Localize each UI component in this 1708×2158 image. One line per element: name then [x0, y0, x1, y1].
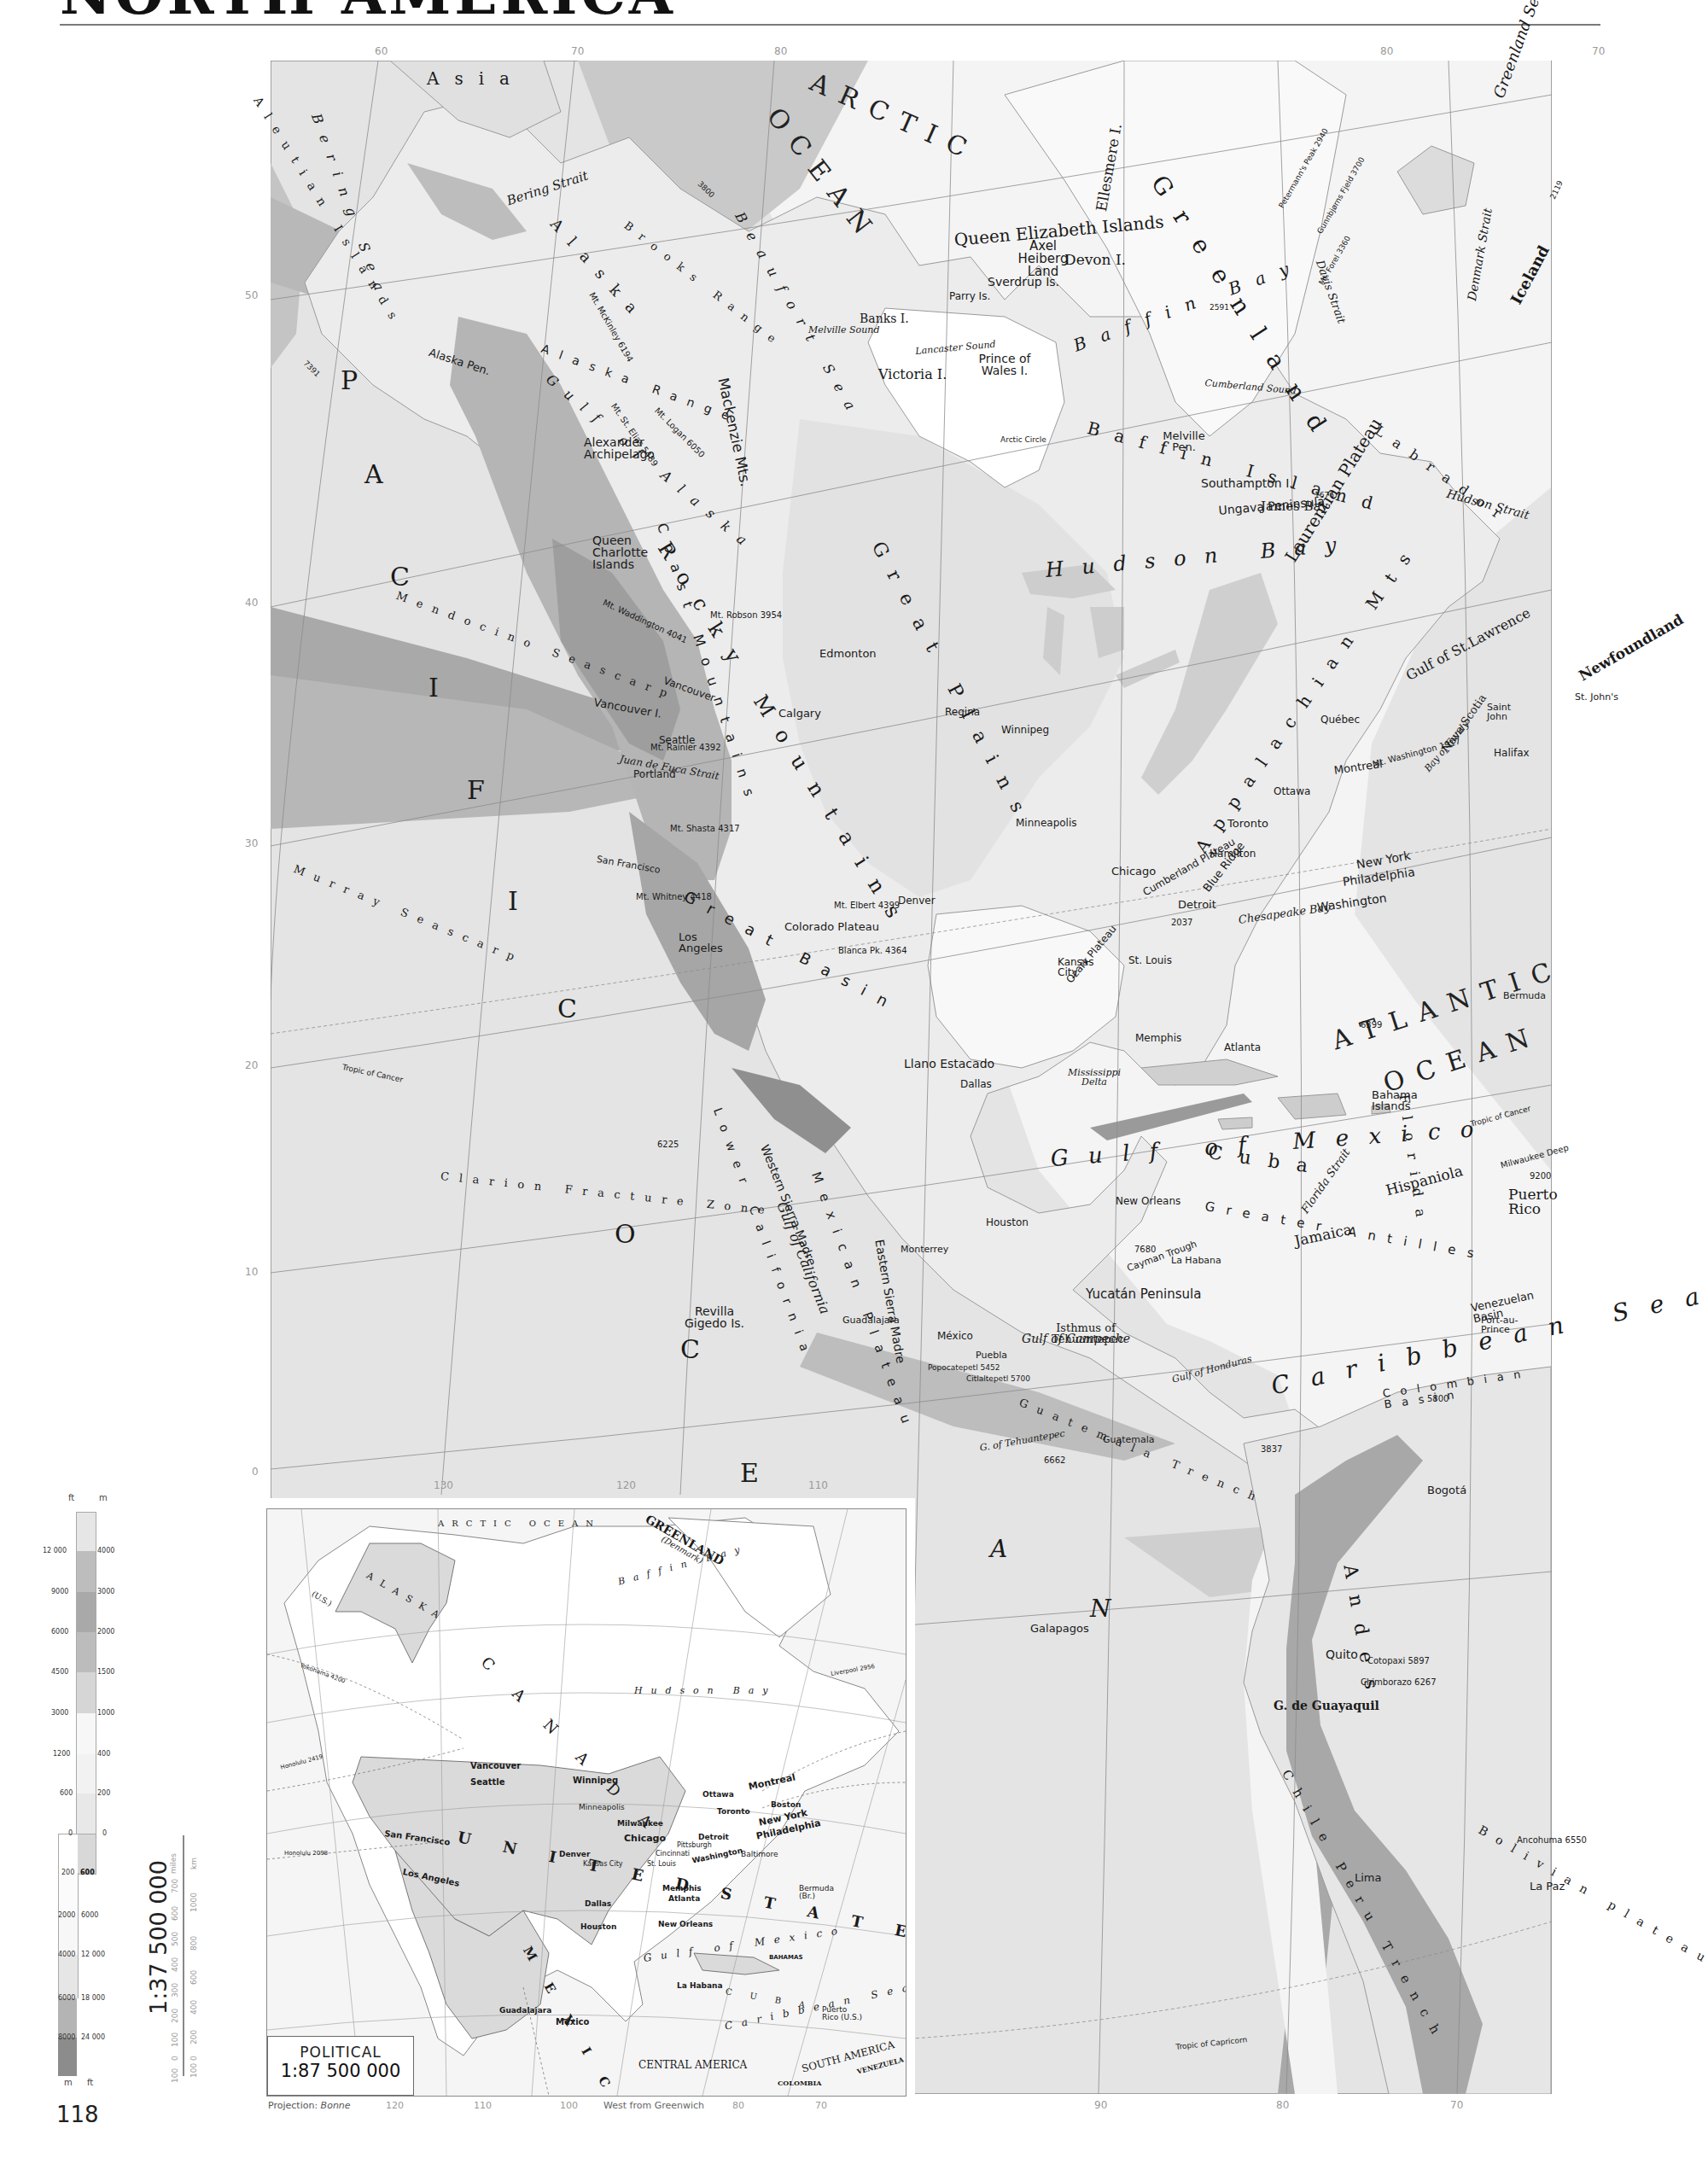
- peak-label: 1676: [1315, 492, 1334, 499]
- legend-sea-band: [58, 1873, 79, 1916]
- scale-miles-tick: 300: [171, 1983, 179, 1998]
- lat-label: 50: [245, 289, 258, 301]
- legend-sea-tick-m: 200: [61, 1869, 74, 1876]
- city-label: New Orleans: [1116, 1196, 1180, 1206]
- legend-band: [76, 1713, 96, 1754]
- pacific-letter: C: [557, 996, 577, 1022]
- puerto-rico-label: Puerto Rico: [1508, 1187, 1559, 1216]
- revilla-gigedo-label: Revilla Gigedo Is.: [676, 1305, 753, 1329]
- inset-city-label: Seattle: [470, 1778, 505, 1787]
- scale-km-tick: 100: [189, 2063, 198, 2078]
- bahama-islands-label: Bahama Islands: [1372, 1089, 1431, 1111]
- scale-km-tick: 0: [189, 2056, 198, 2061]
- scale-km-tick: 1000: [189, 1893, 198, 1912]
- city-label: Hamilton: [1210, 849, 1256, 859]
- inset-city-label: St. Louis: [647, 1861, 676, 1868]
- sverdrup-is-label: Sverdrup Is.: [988, 276, 1059, 288]
- inset-lon-label: 110: [474, 2100, 492, 2111]
- banks-i-label: Banks I.: [860, 312, 909, 324]
- asia-label: Asia: [427, 70, 525, 87]
- inset-city-label: México: [556, 2018, 589, 2027]
- city-label: St. Louis: [1128, 955, 1172, 965]
- inset-city-label: Minneapolis: [579, 1804, 625, 1811]
- pacific-letter: I: [508, 889, 518, 914]
- lon-label: 60: [375, 45, 388, 57]
- axel-heiberg-label: Axel Heiberg Land: [1013, 240, 1073, 278]
- southampton-label: Southampton I.: [1201, 477, 1293, 489]
- legend-sea-tick-ft: 6000: [81, 1911, 98, 1919]
- inset-central-america-label: CENTRAL AMERICA: [638, 2060, 747, 2070]
- inset-city-label: Chicago: [624, 1834, 666, 1843]
- scale-miles-tick: 600: [171, 1906, 179, 1921]
- legend-sea-band: [58, 1916, 79, 1955]
- peak-label: Chimborazo 6267: [1361, 1678, 1437, 1687]
- legend-footer-m: m: [64, 2078, 73, 2087]
- legend-band: [76, 1551, 96, 1592]
- pacific-letter: C: [390, 564, 410, 590]
- inset-city-label: Milwaukee: [617, 1820, 663, 1828]
- lon-label: 90: [1094, 2099, 1107, 2111]
- city-label: Saint John: [1487, 703, 1521, 721]
- melville-sound-label: Melville Sound: [808, 325, 879, 335]
- peak-label: Popocatepetl 5452: [928, 1364, 1000, 1372]
- lat-label: 20: [245, 1059, 258, 1071]
- lat-label: 10: [245, 1266, 258, 1278]
- devon-i-label: Devon I.: [1064, 253, 1126, 267]
- legend-sea-tick-ft: 600: [80, 1869, 95, 1876]
- inset-city-label: Houston: [580, 1923, 616, 1931]
- bermuda-label: Bermuda: [1503, 991, 1546, 1000]
- lon-label: 70: [1450, 2099, 1463, 2111]
- city-label: Portland: [633, 769, 676, 779]
- inset-lon-label: 80: [732, 2100, 744, 2111]
- inset-city-label: Toronto: [717, 1808, 750, 1816]
- peak-label: Cotopaxi 5897: [1367, 1657, 1430, 1665]
- jamaica-island: [1218, 1117, 1252, 1129]
- inset-city-label: Dallas: [585, 1900, 611, 1908]
- legend-tick-m: 0: [102, 1829, 107, 1837]
- inset-arctic-label: ARCTIC OCEAN: [438, 1519, 601, 1528]
- city-label: Winnipeg: [1001, 725, 1049, 735]
- depth-label: 6399: [1361, 1021, 1382, 1029]
- inset-hudson-bay-label: Hudson Bay: [634, 1686, 776, 1695]
- inset-route-label: Honolulu 2098: [284, 1851, 328, 1857]
- lon-label: 120: [616, 1479, 636, 1491]
- peak-label: Mt. Elbert 4399: [834, 901, 900, 910]
- city-label: Dallas: [960, 1079, 992, 1089]
- legend-tick-m: 4000: [97, 1547, 114, 1554]
- legend-tick-m: 1500: [97, 1668, 114, 1676]
- city-label: Memphis: [1135, 1033, 1181, 1043]
- inset-city-label: Boston: [771, 1801, 801, 1809]
- page-number: 118: [56, 2102, 99, 2127]
- city-label: Monterrey: [901, 1245, 948, 1254]
- city-label: Atlanta: [1224, 1042, 1261, 1053]
- legend-band: [76, 1754, 96, 1793]
- title-rule: [60, 24, 1600, 26]
- pacific-letter: O: [615, 1222, 636, 1247]
- scale-unit-km: km: [189, 1858, 198, 1869]
- lon-label: 80: [1276, 2099, 1289, 2111]
- legend-tick-m: 1000: [97, 1709, 114, 1717]
- scale-km-tick: 600: [189, 1970, 198, 1985]
- lat-label: 30: [245, 837, 258, 849]
- inset-city-label: Kansas City: [583, 1861, 623, 1868]
- city-label: Regina: [945, 707, 980, 717]
- yucatan-peninsula-label: Yucatán Peninsula: [1086, 1288, 1201, 1301]
- scale-miles-tick: 100: [171, 2033, 179, 2047]
- llano-estacado-label: Llano Estacado: [904, 1058, 994, 1070]
- city-label: Calgary: [778, 708, 821, 719]
- lon-label: 70: [571, 45, 584, 57]
- city-label: Edmonton: [819, 648, 877, 659]
- pacific-letter: N: [1090, 1597, 1111, 1621]
- inset-political-map[interactable]: GREENLAND (Denmark) ARCTIC OCEAN ALASKA …: [266, 1508, 906, 2097]
- pacific-letter: P: [341, 368, 358, 394]
- prince-of-wales-label: Prince of Wales I.: [975, 353, 1035, 376]
- legend-sea-tick-m: 8000: [58, 2033, 75, 2041]
- inset-lon-label: 70: [815, 2100, 827, 2111]
- legend-band-top: [76, 1512, 96, 1553]
- colorado-plateau-label: Colorado Plateau: [784, 921, 879, 932]
- victoria-i-label: Victoria I.: [878, 368, 947, 382]
- inset-bahamas-label: BAHAMAS: [769, 1955, 802, 1961]
- lon-label: 130: [434, 1479, 453, 1491]
- peak-label: Mt. Whitney 4418: [636, 893, 712, 901]
- legend-sea-band: [58, 2038, 77, 2076]
